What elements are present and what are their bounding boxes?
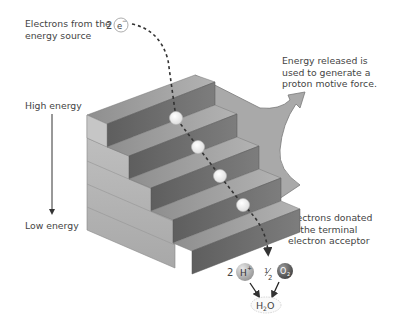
oxygen-group: 1 2 O 2 [264, 263, 293, 282]
proton-to-water-arrow [250, 283, 258, 295]
electron-stop-1 [170, 112, 183, 125]
water-group: H 2 O [251, 297, 281, 313]
proton-coefficient: 2 [227, 267, 233, 278]
oxygen-symbol: O [280, 267, 286, 276]
oxygen-to-water-arrow [273, 282, 279, 295]
oxygen-coef-den: 2 [268, 274, 272, 282]
proton-charge: + [247, 264, 252, 271]
electron-coefficient: 2 [106, 20, 112, 31]
water-o: O [267, 300, 274, 311]
staircase-diagram: 2 e − 2 H + 1 2 O 2 H 2 O [0, 0, 396, 329]
electron-charge: − [122, 17, 127, 24]
electron-source: 2 e − [106, 17, 128, 32]
electron-stop-2 [192, 141, 205, 154]
oxygen-subscript: 2 [287, 271, 290, 277]
electron-stop-3 [214, 170, 227, 183]
electron-stop-4 [237, 199, 250, 212]
proton-group: 2 H + [227, 263, 254, 281]
proton-symbol: H [240, 268, 247, 278]
